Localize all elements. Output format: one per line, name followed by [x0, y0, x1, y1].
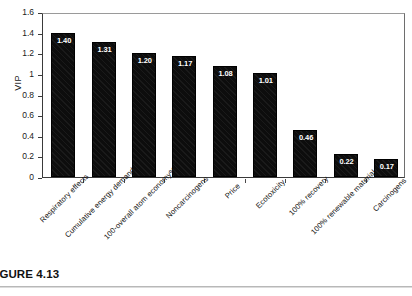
- bar[interactable]: 1.40: [51, 33, 75, 177]
- figure-root: VIP 1.61.41.210.80.60.40.20 1.401.311.20…: [0, 0, 412, 296]
- y-axis-tick-label: 1.2: [22, 48, 34, 58]
- y-axis-tick-label: 1: [29, 69, 34, 79]
- bar[interactable]: 0.17: [374, 159, 398, 177]
- y-axis-title: VIP: [13, 53, 23, 113]
- y-axis-tick-label: 0.6: [22, 110, 34, 120]
- bar-group[interactable]: 0.46: [293, 12, 317, 177]
- caption-divider: [0, 286, 412, 288]
- x-axis-label: 100% recovery: [287, 175, 330, 218]
- bar-value-label: 1.20: [133, 56, 157, 65]
- bar-value-label: 1.40: [52, 36, 76, 45]
- x-axis-label: Carcinogens: [371, 176, 408, 213]
- bar-group[interactable]: 1.20: [132, 12, 156, 177]
- x-axis-label: Ecotoxicity: [254, 178, 287, 211]
- bar-group[interactable]: 0.17: [374, 12, 398, 177]
- bar-value-label: 1.08: [214, 69, 238, 78]
- bar[interactable]: 1.20: [132, 53, 156, 177]
- bar-group[interactable]: 0.22: [334, 12, 358, 177]
- figure-caption: FIGURE 4.13: [0, 268, 412, 296]
- x-axis-labels: Respiratory effectsCumulative energy dem…: [0, 179, 412, 262]
- bar-value-label: 1.31: [93, 45, 117, 54]
- bar[interactable]: 1.31: [92, 42, 116, 177]
- y-axis-tick-label: 0.8: [22, 90, 34, 100]
- bar-group[interactable]: 1.40: [51, 12, 75, 177]
- plot-frame: 1.401.311.201.171.081.010.460.220.17: [42, 13, 405, 178]
- bar[interactable]: 1.08: [213, 66, 237, 177]
- bar-value-label: 1.01: [254, 76, 278, 85]
- bar[interactable]: 1.17: [172, 56, 196, 177]
- bar-group[interactable]: 1.08: [213, 12, 237, 177]
- bar-chart: VIP 1.61.41.210.80.60.40.20 1.401.311.20…: [0, 0, 412, 262]
- y-axis-tick-label: 0.4: [22, 131, 34, 141]
- x-axis-label: Noncarcinogens: [164, 174, 210, 220]
- x-axis-label: Price: [223, 182, 242, 201]
- bar-group[interactable]: 1.17: [172, 12, 196, 177]
- caption-label: FIGURE 4.13: [0, 268, 59, 280]
- y-axis-tick-label: 1.6: [22, 7, 34, 17]
- bar-value-label: 1.17: [173, 59, 197, 68]
- bar-group[interactable]: 1.01: [253, 12, 277, 177]
- y-axis-tick-label: 0.2: [22, 151, 34, 161]
- y-axis-tick-label: 1.4: [22, 28, 34, 38]
- bar-value-label: 0.17: [375, 162, 399, 171]
- bar-group[interactable]: 1.31: [92, 12, 116, 177]
- bar[interactable]: 1.01: [253, 73, 277, 177]
- bar-value-label: 0.46: [294, 133, 318, 142]
- bar[interactable]: 0.46: [293, 130, 317, 177]
- bar-value-label: 0.22: [335, 157, 359, 166]
- bar[interactable]: 0.22: [334, 154, 358, 177]
